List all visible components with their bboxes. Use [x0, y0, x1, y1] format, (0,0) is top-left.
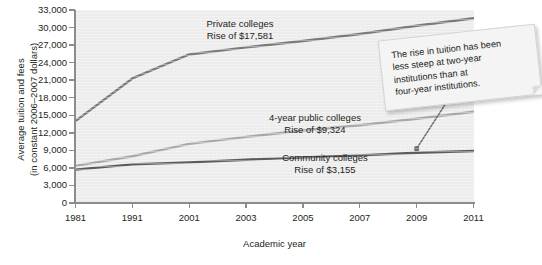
- x-tick-mark: [132, 203, 133, 208]
- y-axis-line: [74, 10, 76, 204]
- x-tick-label: 1981: [46, 213, 106, 223]
- y-tick-label: 6,000: [5, 163, 67, 173]
- series-label-private-name: Private colleges: [175, 18, 305, 30]
- x-tick-label: 2001: [159, 213, 219, 223]
- x-tick-mark: [302, 203, 303, 208]
- x-tick-label: 2005: [273, 213, 333, 223]
- series-label-private-rise: Rise of $17,581: [175, 30, 305, 42]
- x-tick-label: 1991: [102, 213, 162, 223]
- y-tick-label: 30,000: [5, 23, 67, 33]
- y-tick-label: 18,000: [5, 93, 67, 103]
- x-tick-mark: [189, 203, 190, 208]
- series-label-community-name: Community colleges: [255, 152, 395, 164]
- series-label-community: Community colleges Rise of $3,155: [255, 152, 395, 176]
- series-label-public4: 4-year public colleges Rise of $9,324: [240, 112, 390, 136]
- x-tick-label: 2007: [330, 213, 390, 223]
- x-tick-label: 2003: [216, 213, 276, 223]
- x-axis-title: Academic year: [75, 238, 474, 249]
- series-label-public4-rise: Rise of $9,324: [240, 124, 390, 136]
- series-label-community-rise: Rise of $3,155: [255, 164, 395, 176]
- x-tick-mark: [359, 203, 360, 208]
- series-label-private: Private colleges Rise of $17,581: [175, 18, 305, 42]
- x-tick-mark: [75, 203, 76, 208]
- y-tick-label: 33,000: [5, 5, 67, 15]
- y-tick-label: 9,000: [5, 145, 67, 155]
- annotation-arrow-head: [414, 146, 419, 151]
- x-tick-label: 2011: [444, 213, 504, 223]
- y-tick-label: 15,000: [5, 110, 67, 120]
- note-fold-corner: [532, 85, 542, 95]
- series-label-public4-name: 4-year public colleges: [240, 112, 390, 124]
- y-tick-label: 0: [5, 198, 67, 208]
- y-tick-label: 27,000: [5, 40, 67, 50]
- y-tick-label: 24,000: [5, 58, 67, 68]
- x-tick-mark: [245, 203, 246, 208]
- y-tick-label: 21,000: [5, 75, 67, 85]
- y-tick-label: 12,000: [5, 128, 67, 138]
- y-tick-label: 3,000: [5, 180, 67, 190]
- x-tick-label: 2009: [387, 213, 447, 223]
- x-axis-line: [74, 202, 475, 204]
- x-tick-mark: [473, 203, 474, 208]
- x-tick-mark: [416, 203, 417, 208]
